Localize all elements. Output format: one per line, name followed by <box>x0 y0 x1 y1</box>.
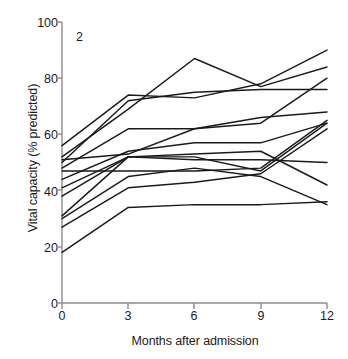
series-line <box>62 202 327 253</box>
axes-group <box>56 22 327 309</box>
plot-area <box>0 0 348 359</box>
series-line <box>62 78 327 159</box>
series-line <box>62 50 327 146</box>
vital-capacity-figure: Vital capacity (% predicted) Months afte… <box>0 0 348 359</box>
series-group <box>62 50 327 252</box>
series-line <box>62 168 327 219</box>
